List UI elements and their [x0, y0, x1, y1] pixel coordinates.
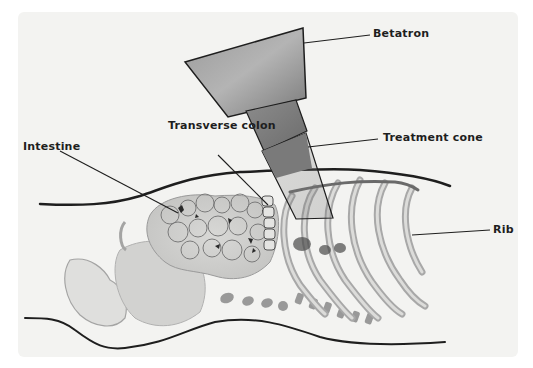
- label-intestine: Intestine: [23, 140, 80, 153]
- illustration: [0, 0, 533, 368]
- kidney-region: [293, 237, 346, 255]
- label-rib: Rib: [493, 223, 514, 236]
- label-betatron: Betatron: [373, 27, 429, 40]
- label-treatment-cone: Treatment cone: [383, 131, 483, 144]
- body-lower-outline: [25, 318, 445, 348]
- label-transverse-colon: Transverse colon: [168, 119, 276, 132]
- diagram-canvas: Betatron Treatment cone Transverse colon…: [0, 0, 533, 368]
